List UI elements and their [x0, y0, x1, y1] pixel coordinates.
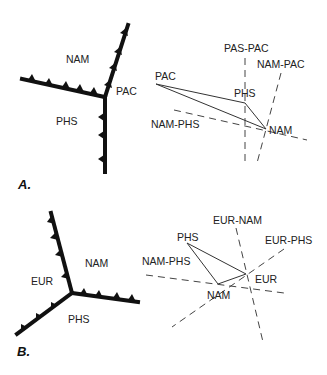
- panel-b-velocity-triangle: EUR-NAM EUR-PHS PHS NAM-PHS EUR NAM: [142, 214, 312, 342]
- panel-b-map: NAM EUR PHS: [17, 213, 138, 334]
- boundary-label-nam-phs: NAM-PHS: [142, 255, 190, 267]
- triple-junction-figure: NAM PAC PHS PAS-PAC NAM-PAC PAC PHS NAM-…: [0, 0, 327, 375]
- point-label-nam: NAM: [269, 124, 292, 136]
- panel-a-map: NAM PAC PHS: [22, 25, 137, 172]
- plate-label-nam: NAM: [85, 257, 108, 269]
- trench-eur-nam: [51, 213, 72, 293]
- boundary-label-eur-nam: EUR-NAM: [213, 214, 262, 226]
- panel-a-velocity-triangle: PAS-PAC NAM-PAC PAC PHS NAM-PHS NAM: [151, 42, 307, 163]
- boundary-label-nam-pac: NAM-PAC: [257, 58, 305, 70]
- point-label-phs: PHS: [177, 231, 199, 243]
- trench-nam-phs: [22, 79, 105, 97]
- point-label-phs: PHS: [234, 87, 256, 99]
- velocity-triangle: [187, 243, 246, 284]
- plate-label-phs: PHS: [56, 115, 78, 127]
- boundary-label-pas-pac: PAS-PAC: [224, 42, 269, 54]
- point-label-eur: EUR: [255, 273, 278, 285]
- plate-label-pac: PAC: [116, 85, 137, 97]
- plate-label-nam: NAM: [66, 53, 89, 65]
- plate-label-eur: EUR: [31, 275, 54, 287]
- boundary-eur-nam: [236, 228, 263, 342]
- boundary-label-nam-phs: NAM-PHS: [151, 118, 199, 130]
- panel-label-b: B.: [17, 344, 30, 359]
- point-label-pac: PAC: [155, 70, 176, 82]
- subduction-teeth-icon: [28, 28, 128, 163]
- plate-label-phs: PHS: [68, 313, 90, 325]
- boundary-label-eur-phs: EUR-PHS: [265, 234, 312, 246]
- point-label-nam: NAM: [207, 289, 230, 301]
- panel-label-a: A.: [17, 177, 31, 192]
- boundary-nam-pac: [257, 73, 281, 163]
